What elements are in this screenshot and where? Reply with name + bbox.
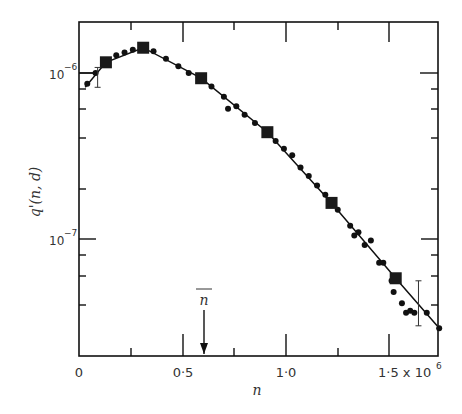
plot-frame: [79, 22, 438, 356]
data-point: [391, 289, 397, 295]
data-point: [314, 183, 320, 189]
data-point: [252, 120, 258, 126]
data-point: [130, 47, 136, 53]
y-axis-label: q'(n, d): [27, 167, 43, 218]
data-point: [122, 49, 128, 55]
binned-point: [390, 272, 402, 284]
data-point: [113, 52, 119, 58]
y-tick-label-1e-7-exp: −7: [64, 228, 77, 238]
data-point: [163, 56, 169, 62]
data-point: [233, 103, 239, 109]
data-point: [242, 112, 248, 118]
data-point: [84, 81, 90, 87]
nbar-annotation: n: [196, 289, 212, 354]
binned-point: [326, 197, 338, 209]
x-tick-label-0: 0: [75, 365, 83, 380]
data-point: [424, 310, 430, 316]
data-point: [368, 237, 374, 243]
data-point: [151, 48, 157, 54]
arrow-down-icon: [200, 343, 208, 354]
chart: 0 0·5 1·0 1·5 x 10 6 10 −6 10 −7 n q'(n,…: [0, 0, 462, 414]
data-point: [347, 223, 353, 229]
data-point: [186, 70, 192, 76]
data-point: [355, 229, 361, 235]
error-bar: [415, 281, 421, 326]
nbar-label: n: [199, 292, 208, 308]
y-ticks-right: [420, 73, 438, 305]
data-point: [322, 192, 328, 198]
data-point: [436, 325, 442, 331]
y-tick-label-1e-6-exp: −6: [64, 62, 78, 72]
y-tick-label-1e-6-base: 10: [49, 68, 64, 82]
x-tick-label-0.5: 0·5: [173, 365, 194, 380]
x-tick-exponent: 6: [436, 361, 442, 371]
y-tick-label-1e-7-base: 10: [49, 234, 64, 248]
x-tick-label-1.5: 1·5 x 10: [378, 365, 431, 380]
data-point: [362, 242, 368, 248]
data-point: [208, 83, 214, 89]
fitted-curve: [85, 48, 437, 326]
data-point: [273, 138, 279, 144]
binned-point: [195, 72, 207, 84]
y-ticks-left: [79, 73, 98, 305]
data-point: [306, 173, 312, 179]
data-point: [289, 152, 295, 158]
binned-point: [261, 126, 273, 138]
data-point: [281, 146, 287, 152]
x-ticks-bottom: [131, 334, 389, 356]
data-point: [411, 310, 417, 316]
x-ticks-top: [131, 22, 389, 42]
data-point: [399, 300, 405, 306]
data-point: [380, 260, 386, 266]
data-point: [225, 106, 231, 112]
x-tick-label-1.0: 1·0: [276, 365, 297, 380]
x-axis-label: n: [252, 382, 261, 398]
plot-area: [84, 42, 442, 332]
binned-point: [137, 42, 149, 54]
data-point: [297, 164, 303, 170]
data-point: [221, 94, 227, 100]
data-point: [175, 63, 181, 69]
binned-point: [100, 56, 112, 68]
